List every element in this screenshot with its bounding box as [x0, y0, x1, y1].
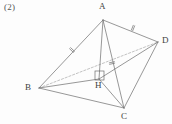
vertex-label-b: B	[25, 83, 31, 92]
solid-edges-group	[39, 20, 158, 108]
edge-C-D	[124, 42, 158, 108]
vertex-label-h: H	[95, 81, 102, 90]
vertex-label-a: A	[99, 2, 106, 11]
problem-number-label: (2)	[4, 3, 15, 12]
edge-H-D	[99, 42, 158, 79]
tick-edge-A-C	[109, 62, 114, 65]
edge-B-C	[39, 88, 124, 108]
tetrahedron-diagram	[0, 0, 172, 124]
vertex-label-d: D	[162, 36, 169, 45]
geometry-figure-container: (2) ABCDH	[0, 0, 172, 124]
edge-A-B	[39, 20, 103, 88]
edge-A-H	[99, 20, 103, 79]
edge-A-C	[103, 20, 124, 108]
tick-edge-A-D	[131, 25, 134, 30]
tick-edge-A-C-stroke-0	[109, 62, 114, 63]
edge-A-D	[103, 20, 158, 42]
vertex-label-c: C	[121, 112, 127, 121]
tick-edge-A-C-stroke-1	[110, 63, 115, 64]
edge-B-H	[39, 79, 99, 88]
